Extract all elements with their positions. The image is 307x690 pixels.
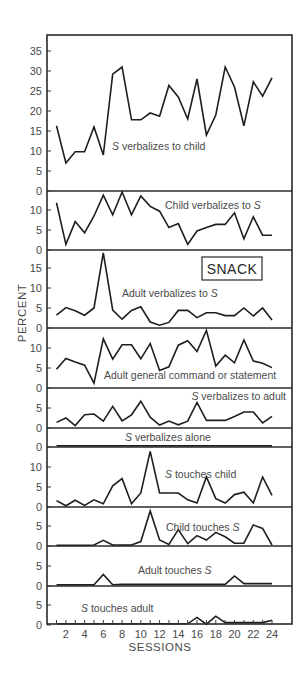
y-tick-label: 25 (30, 85, 42, 97)
y-tick-label: 0 (36, 322, 42, 334)
x-axis-title: SESSIONS (129, 641, 192, 653)
panel-s-verbalizes-alone: 0S verbalizes alone (36, 431, 292, 453)
panel-s-touches-adult: 05S touches adult (36, 599, 272, 631)
panel-label: S verbalizes to adult (191, 390, 286, 402)
panel-label: Adult general command or statement (104, 369, 276, 381)
y-tick-label: 10 (30, 461, 42, 473)
panel-s-touches-child: 0510S touches child (30, 451, 292, 513)
x-tick-label: 6 (100, 628, 106, 640)
x-tick-label: 8 (119, 628, 125, 640)
panel-label: S verbalizes to child (112, 140, 206, 152)
x-tick-label: 10 (135, 628, 147, 640)
y-tick-label: 10 (30, 282, 42, 294)
x-tick-label: 4 (82, 628, 88, 640)
panel-label: S touches adult (81, 602, 153, 614)
y-tick-label: 0 (36, 619, 42, 631)
x-tick-label: 2 (63, 628, 69, 640)
y-tick-label: 35 (30, 45, 42, 57)
y-tick-label: 0 (36, 244, 42, 256)
chart-frame (47, 35, 292, 624)
y-tick-label: 0 (36, 580, 42, 592)
y-tick-label: 0 (36, 540, 42, 552)
y-tick-label: 15 (30, 125, 42, 137)
y-tick-label: 20 (30, 105, 42, 117)
series-line-s-verbalizes-to-adult (57, 401, 273, 425)
y-tick-label: 10 (30, 145, 42, 157)
y-tick-label: 5 (36, 599, 42, 611)
y-tick-label: 0 (36, 501, 42, 513)
x-tick-label: 20 (228, 628, 240, 640)
panel-label: Adult touches S (138, 564, 212, 576)
series-line-s-touches-adult (57, 616, 273, 624)
chart-panels: 05101520253035S verbalizes to child0510C… (30, 45, 292, 631)
snack-annotation: SNACK (202, 257, 262, 280)
y-tick-label: 5 (36, 402, 42, 414)
series-line-child-touches-s (57, 511, 273, 545)
y-tick-label: 0 (36, 422, 42, 434)
y-tick-label: 10 (30, 342, 42, 354)
panel-child-touches-s: 05Child touches S (36, 511, 292, 552)
x-tick-label: 12 (153, 628, 165, 640)
panel-label: Child touches S (166, 521, 240, 533)
y-tick-label: 15 (30, 262, 42, 274)
x-tick-label: 16 (191, 628, 203, 640)
y-tick-label: 5 (36, 165, 42, 177)
y-tick-label: 0 (36, 382, 42, 394)
y-tick-label: 30 (30, 65, 42, 77)
y-tick-label: 5 (36, 560, 42, 572)
panel-s-verbalizes-to-child: 05101520253035S verbalizes to child (30, 45, 292, 197)
snack-label: SNACK (207, 261, 258, 277)
x-tick-label: 24 (266, 628, 278, 640)
y-tick-label: 5 (36, 481, 42, 493)
panel-label: Adult verbalizes to S (122, 287, 218, 299)
y-tick-label: 5 (36, 362, 42, 374)
y-tick-label: 0 (36, 441, 42, 453)
y-tick-label: 0 (36, 185, 42, 197)
panel-adult-general-command-or-statement: 0510Adult general command or statement (30, 330, 292, 394)
panel-label: S touches child (165, 468, 236, 480)
y-tick-label: 5 (36, 224, 42, 236)
x-tick-label: 14 (172, 628, 184, 640)
y-axis-title: PERCENT (16, 284, 28, 342)
y-tick-label: 5 (36, 520, 42, 532)
stacked-line-chart: 05101520253035S verbalizes to child0510C… (0, 0, 307, 690)
y-tick-label: 5 (36, 302, 42, 314)
panel-adult-touches-s: 05Adult touches S (36, 560, 292, 592)
panel-label: Child verbalizes to S (165, 199, 261, 211)
x-tick-label: 18 (210, 628, 222, 640)
panel-s-verbalizes-to-adult: 05S verbalizes to adult (36, 390, 292, 434)
panel-child-verbalizes-to-s: 0510Child verbalizes to S (30, 192, 292, 256)
x-tick-label: 22 (247, 628, 259, 640)
panel-label: S verbalizes alone (125, 431, 211, 443)
y-tick-label: 10 (30, 204, 42, 216)
